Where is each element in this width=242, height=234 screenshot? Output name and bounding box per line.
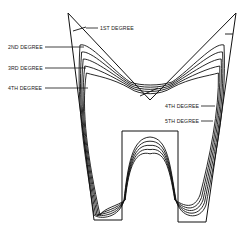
label-3rd-degree: 3RD DEGREE	[8, 65, 43, 71]
label-5th-degree: 5TH DEGREE	[165, 118, 200, 124]
label-4th-degree-right: 4TH DEGREE	[165, 103, 200, 109]
outer-control-polygon	[68, 13, 236, 222]
label-4th-degree-left: 4TH DEGREE	[8, 85, 43, 91]
label-1st-degree: 1ST DEGREE	[100, 25, 134, 31]
label-2nd-degree: 2ND DEGREE	[8, 44, 43, 50]
degree-6-curve	[84, 73, 218, 215]
degree-3-curve	[80, 52, 222, 216]
tooth-degree-diagram: 1ST DEGREE 2ND DEGREE 3RD DEGREE 4TH DEG…	[0, 0, 242, 234]
degree-5-curve	[83, 66, 220, 215]
